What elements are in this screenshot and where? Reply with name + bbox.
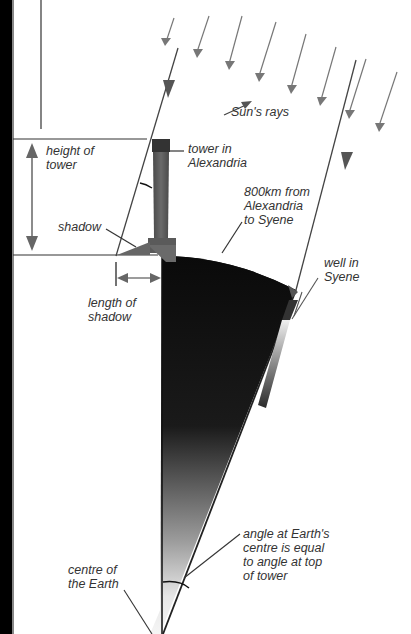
centre-leader bbox=[124, 590, 152, 634]
shadow-shape bbox=[117, 242, 150, 255]
eratosthenes-diagram: Sun's rays height of tower tower in Alex… bbox=[0, 0, 411, 634]
tower-angle-arc bbox=[140, 183, 152, 188]
sun-rays-label: Sun's rays bbox=[231, 105, 289, 119]
height-dimension-arrow bbox=[26, 143, 38, 251]
shadow-leader bbox=[106, 229, 136, 247]
distance-leader bbox=[222, 222, 242, 253]
well-in-syene-label: well in Syene bbox=[324, 256, 359, 284]
centre-of-earth-label: centre of the Earth bbox=[68, 563, 119, 591]
left-border bbox=[0, 0, 12, 634]
diagram-canvas bbox=[0, 0, 411, 634]
height-of-tower-label: height of tower bbox=[46, 144, 94, 172]
tower-in-alexandria-label: tower in Alexandria bbox=[188, 142, 247, 170]
tower-in-alexandria bbox=[148, 139, 176, 262]
shadow-label: shadow bbox=[58, 220, 101, 234]
well-leader-1 bbox=[292, 278, 318, 319]
distance-label: 800km from Alexandria to Syene bbox=[244, 185, 310, 227]
angle-note-label: angle at Earth's centre is equal to angl… bbox=[243, 527, 329, 583]
shadow-length-dimension bbox=[116, 262, 161, 286]
length-of-shadow-label: length of shadow bbox=[88, 296, 136, 324]
